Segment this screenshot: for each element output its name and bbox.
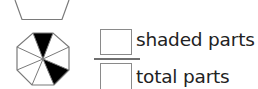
numerator-answer-box[interactable]	[100, 29, 132, 55]
shaded-sector-lower-right	[43, 59, 69, 85]
denominator-answer-box[interactable]	[100, 63, 132, 89]
fraction-figure	[0, 0, 90, 89]
shaded-sector-top	[33, 33, 53, 59]
trapezoid-shape	[15, 0, 69, 20]
numerator-label: shaded parts	[136, 31, 255, 50]
fraction-bar	[94, 58, 140, 60]
octagon-shape	[17, 33, 69, 85]
denominator-label: total parts	[136, 68, 230, 87]
